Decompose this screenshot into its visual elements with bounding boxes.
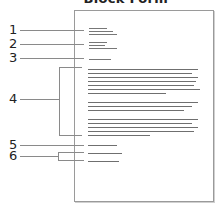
callout-label-2: 2 xyxy=(9,37,17,50)
text-line xyxy=(89,45,105,46)
leader-line-3 xyxy=(20,58,84,59)
leader-line-2 xyxy=(20,44,84,45)
closing-line xyxy=(88,145,117,146)
signature-line xyxy=(88,153,122,154)
leader-line-5 xyxy=(20,145,84,146)
text-line xyxy=(88,69,198,70)
text-line xyxy=(88,135,150,136)
text-line xyxy=(88,93,166,94)
letter-page xyxy=(74,10,214,202)
text-line xyxy=(89,34,117,35)
text-line xyxy=(88,85,194,86)
bracket-6-bottom xyxy=(58,160,84,161)
bracket-4 xyxy=(59,67,60,135)
callout-label-6: 6 xyxy=(9,149,17,162)
text-line xyxy=(88,106,192,107)
text-line xyxy=(89,48,117,49)
text-line xyxy=(89,31,113,32)
text-line xyxy=(88,119,198,120)
text-line xyxy=(88,77,198,78)
leader-line-1 xyxy=(20,30,84,31)
callout-label-1: 1 xyxy=(9,23,17,36)
text-line xyxy=(88,123,192,124)
callout-label-4: 4 xyxy=(9,92,17,105)
leader-line-4 xyxy=(20,99,59,100)
bracket-4-top xyxy=(59,67,82,68)
signature-name-line xyxy=(88,161,119,162)
text-line xyxy=(88,131,194,132)
text-line xyxy=(88,110,184,111)
callout-label-3: 3 xyxy=(9,51,17,64)
text-line xyxy=(89,42,107,43)
text-line xyxy=(88,81,196,82)
leader-line-6 xyxy=(20,156,58,157)
text-line xyxy=(88,127,198,128)
text-line xyxy=(89,28,107,29)
bracket-6-top xyxy=(58,152,84,153)
text-line xyxy=(88,102,198,103)
text-line xyxy=(88,73,192,74)
text-line xyxy=(88,89,200,90)
salutation-line xyxy=(89,59,111,60)
bracket-4-bottom xyxy=(59,135,82,136)
diagram-title: Block Form xyxy=(0,0,224,6)
